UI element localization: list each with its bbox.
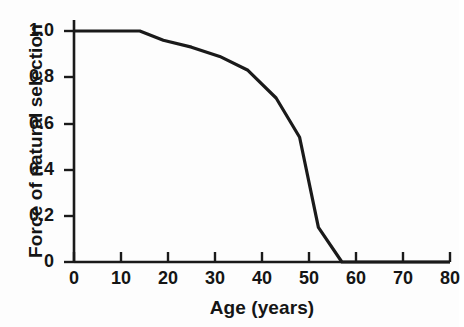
- y-axis-ticks: [64, 31, 74, 262]
- x-tick-label-40: 40: [242, 268, 282, 289]
- x-tick-label-60: 60: [336, 268, 376, 289]
- x-tick-label-50: 50: [289, 268, 329, 289]
- x-tick-label-30: 30: [195, 268, 235, 289]
- x-tick-label-0: 0: [54, 268, 94, 289]
- x-tick-label-20: 20: [148, 268, 188, 289]
- x-tick-label-70: 70: [383, 268, 423, 289]
- x-axis-title: Age (years): [74, 297, 450, 319]
- y-axis-title: Force of natural selection: [25, 21, 47, 261]
- data-line-force-of-natural-selection: [74, 31, 450, 262]
- x-tick-label-80: 80: [430, 268, 464, 289]
- x-tick-label-10: 10: [101, 268, 141, 289]
